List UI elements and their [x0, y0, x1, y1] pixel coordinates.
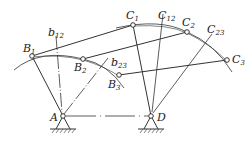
label-c23: C23: [207, 23, 225, 37]
ground-hatch-d: [140, 129, 163, 133]
label-b12: b12: [48, 26, 65, 40]
label-c3: C3: [232, 53, 245, 67]
linkage-diagram: A D B1 B2 B3 C1 C2 C3 b12 b23 C12 C23: [0, 0, 252, 148]
ground-hatch-a: [52, 129, 75, 133]
label-c2: C2: [182, 16, 195, 30]
joint-c2: [185, 30, 190, 35]
joint-b3: [117, 73, 122, 78]
bisector-c12: [152, 14, 163, 112]
joint-c1: [131, 23, 136, 28]
label-c12: C12: [158, 9, 176, 23]
joint-d: [149, 114, 154, 119]
label-a: A: [49, 111, 58, 124]
joint-c3: [225, 58, 230, 63]
label-c1: C1: [126, 9, 139, 23]
label-b3: B3: [107, 78, 121, 92]
label-b23: b23: [111, 56, 128, 70]
label-b1: B1: [22, 42, 36, 56]
coupler-b3-c3: [119, 60, 227, 75]
label-b2: B2: [73, 61, 87, 75]
label-d: D: [156, 111, 166, 124]
joint-a: [61, 114, 66, 119]
bisector-c23: [153, 34, 212, 113]
